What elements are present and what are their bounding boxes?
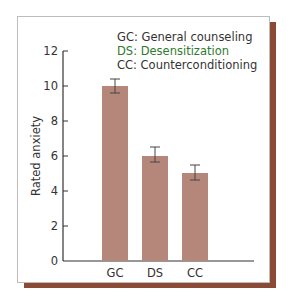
legend-cc: CC: Counterconditioning: [117, 58, 257, 72]
svg-text:8: 8: [51, 114, 58, 128]
svg-text:4: 4: [51, 184, 58, 198]
x-label-ds: DS: [147, 266, 163, 280]
bar-cc: [182, 173, 208, 261]
legend-ds: DS: Desensitization: [117, 44, 229, 58]
bar-ds: [142, 156, 168, 261]
svg-text:2: 2: [51, 219, 58, 233]
x-label-cc: CC: [187, 266, 203, 280]
legend-gc: GC: General counseling: [117, 30, 252, 44]
svg-text:0: 0: [51, 254, 58, 268]
y-axis-label: Rated anxiety: [29, 116, 43, 196]
svg-text:6: 6: [51, 149, 58, 163]
svg-text:10: 10: [43, 79, 58, 93]
svg-text:12: 12: [43, 44, 58, 58]
bar-gc: [102, 86, 128, 261]
x-label-gc: GC: [107, 266, 124, 280]
bar-chart: GC: General counseling DS: Desensitizati…: [0, 0, 291, 302]
y-ticks: 0 2 4 6 8 10 12: [43, 44, 68, 268]
